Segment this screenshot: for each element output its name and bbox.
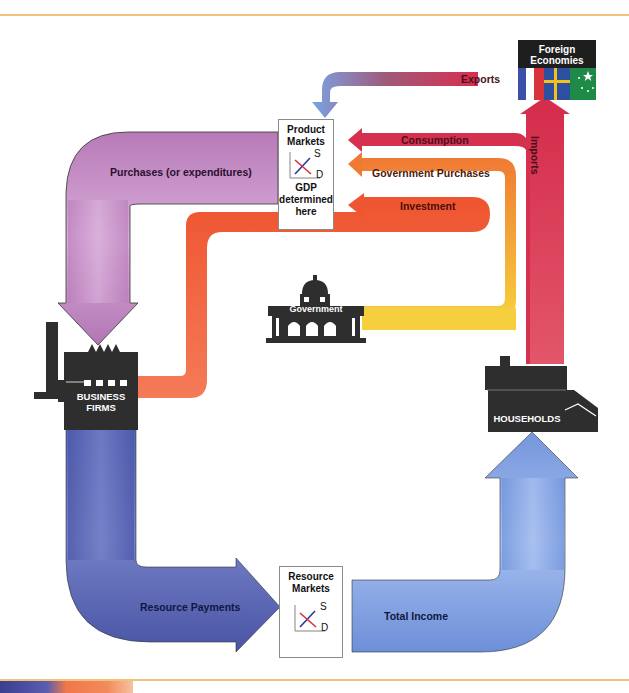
investment-label: Investment <box>400 200 455 212</box>
purchases-flow-arrow <box>58 132 278 345</box>
bottom-color-band <box>0 681 133 693</box>
demand-label: D <box>321 622 328 634</box>
resource-markets-box: Resource Markets S D <box>279 566 343 658</box>
product-markets-box: Product Markets S D GDP determined here <box>278 119 334 230</box>
foreign-label-line1: Foreign <box>518 44 596 55</box>
supply-label: S <box>314 148 321 160</box>
supply-demand-graph: S D <box>286 150 326 180</box>
supply-label: S <box>320 601 327 613</box>
households-label: HOUSEHOLDS <box>488 413 566 424</box>
product-markets-line1: Product <box>279 124 333 136</box>
foreign-economies-label: Foreign Economies <box>518 44 596 66</box>
imports-label: Imports <box>529 136 541 175</box>
gdp-line3: here <box>279 206 333 218</box>
consumption-label: Consumption <box>401 134 469 146</box>
resource-markets-line1: Resource <box>280 571 342 583</box>
gdp-line1: GDP <box>279 182 333 194</box>
product-markets-line2: Markets <box>279 136 333 148</box>
resource-payments-label: Resource Payments <box>140 601 240 613</box>
business-firms-line2: FIRMS <box>64 402 138 413</box>
resource-supply-demand-graph: S D <box>291 603 331 633</box>
business-firms-label: BUSINESS FIRMS <box>64 391 138 413</box>
foreign-label-line2: Economies <box>518 55 596 66</box>
business-firms-line1: BUSINESS <box>64 391 138 402</box>
business-firms-icon <box>34 322 138 430</box>
total-income-label: Total Income <box>384 610 448 622</box>
purchases-label: Purchases (or expenditures) <box>110 166 252 178</box>
gdp-line2: determined <box>279 194 333 206</box>
resource-markets-line2: Markets <box>280 583 342 595</box>
demand-label: D <box>316 169 323 181</box>
resource-payments-flow-arrow <box>66 425 280 652</box>
exports-flow-arrow <box>312 72 478 118</box>
government-purchases-label: Government Purchases <box>372 167 490 179</box>
exports-label: Exports <box>461 73 500 85</box>
government-label: Government <box>272 304 360 315</box>
government-spending-flow <box>362 308 516 330</box>
